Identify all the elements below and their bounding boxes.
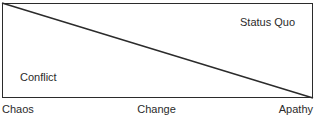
- diagram-canvas: Status Quo Conflict Chaos Change Apathy: [0, 0, 321, 127]
- region-label-status-quo: Status Quo: [240, 16, 295, 28]
- region-label-conflict: Conflict: [20, 71, 57, 83]
- axis-label-apathy: Apathy: [0, 103, 313, 115]
